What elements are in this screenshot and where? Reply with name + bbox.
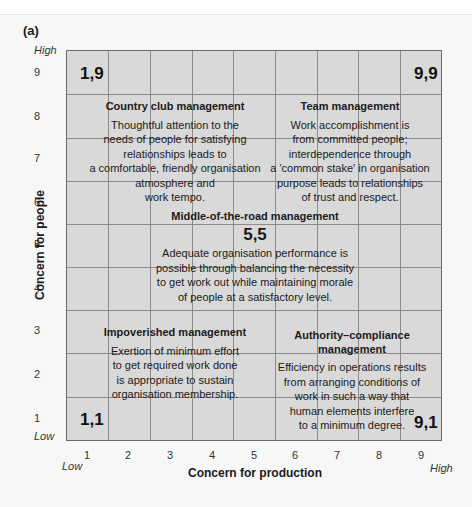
team-line: interdependence through (255, 147, 445, 162)
y-axis-high-label: High (34, 44, 57, 56)
middle-of-the-road-block: Middle-of-the-road management 5,5 Adequa… (140, 210, 370, 304)
country-club-line: a comfortable, friendly organisation (80, 161, 270, 176)
x-tick-5: 5 (247, 449, 261, 461)
y-tick-3: 3 (30, 324, 40, 336)
score-5-5: 5,5 (140, 228, 370, 243)
score-9-9: 9,9 (414, 64, 438, 84)
team-title: Team management (255, 100, 445, 114)
y-axis-label: Concern for people (33, 165, 47, 325)
y-tick-1: 1 (30, 412, 40, 424)
authority-line: Efficiency in operations results (262, 360, 442, 375)
grid-hline (67, 94, 441, 95)
team-line: of trust and respect. (255, 190, 445, 205)
authority-line: from arranging conditions of (262, 375, 442, 390)
team-management-block: Team management Work accomplishment is f… (255, 100, 445, 205)
country-club-title: Country club management (80, 100, 270, 114)
x-tick-9: 9 (414, 449, 428, 461)
team-line: a 'common stake' in organisation (255, 161, 445, 176)
impoverished-line: organisation membership. (85, 387, 265, 402)
middle-title: Middle-of-the-road management (140, 210, 370, 224)
y-tick-2: 2 (30, 368, 40, 380)
impoverished-line: is appropriate to sustain (85, 373, 265, 388)
y-tick-8: 8 (30, 110, 40, 122)
x-tick-2: 2 (121, 449, 135, 461)
team-line: Work accomplishment is (255, 118, 445, 133)
team-line: from committed people; (255, 132, 445, 147)
x-axis-high-label: High (430, 462, 453, 474)
authority-line: to a minimum degree. (262, 418, 442, 433)
middle-line: of people at a satisfactory level. (140, 290, 370, 305)
x-axis-label: Concern for production (170, 466, 340, 480)
country-club-line: work tempo. (80, 190, 270, 205)
x-tick-7: 7 (330, 449, 344, 461)
impoverished-line: Exertion of minimum effort (85, 344, 265, 359)
x-tick-3: 3 (163, 449, 177, 461)
country-club-management-block: Country club management Thoughtful atten… (80, 100, 270, 205)
authority-title-line1: Authority–compliance (262, 329, 442, 343)
middle-line: to get work out while maintaining morale (140, 275, 370, 290)
x-tick-6: 6 (288, 449, 302, 461)
panel-label: (a) (23, 23, 39, 38)
grid-hline (67, 310, 441, 311)
x-tick-8: 8 (372, 449, 386, 461)
country-club-line: needs of people for satisfying (80, 132, 270, 147)
authority-title-line2: management (262, 343, 442, 357)
page-top-edge (0, 0, 472, 15)
authority-line: work in such a way that (262, 389, 442, 404)
score-1-9: 1,9 (80, 64, 104, 84)
x-tick-4: 4 (205, 449, 219, 461)
country-club-line: Thoughtful attention to the (80, 118, 270, 133)
country-club-line: relationships leads to (80, 147, 270, 162)
authority-compliance-block: Authority–compliance management Efficien… (262, 329, 442, 433)
x-axis-low-label: Low (62, 460, 82, 472)
y-tick-9: 9 (30, 66, 40, 78)
authority-title: Authority–compliance management (262, 329, 442, 356)
country-club-line: atmosphere and (80, 176, 270, 191)
middle-line: possible through balancing the necessity (140, 261, 370, 276)
authority-line: human elements interfere (262, 404, 442, 419)
team-line: purpose leads to relationships (255, 176, 445, 191)
impoverished-line: to get required work done (85, 358, 265, 373)
impoverished-title: Impoverished management (85, 326, 265, 340)
y-axis-low-label: Low (34, 430, 54, 442)
y-tick-7: 7 (30, 152, 40, 164)
score-1-1: 1,1 (80, 410, 104, 430)
middle-line: Adequate organisation performance is (140, 246, 370, 261)
impoverished-management-block: Impoverished management Exertion of mini… (85, 326, 265, 402)
